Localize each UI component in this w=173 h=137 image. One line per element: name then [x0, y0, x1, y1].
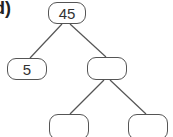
root-node: 45 — [48, 2, 86, 24]
edge-right-rightleft — [70, 80, 104, 114]
edge-root-left — [30, 24, 62, 58]
edge-root-right — [70, 24, 106, 57]
factor-tree-diagram: d) 45 5 — [0, 0, 173, 137]
grandchild-right-node-blank[interactable] — [128, 114, 168, 137]
edge-right-rightright — [110, 80, 146, 114]
right-child-node-blank[interactable] — [87, 57, 127, 80]
left-child-node: 5 — [7, 58, 47, 80]
grandchild-left-node-blank[interactable] — [49, 114, 89, 137]
